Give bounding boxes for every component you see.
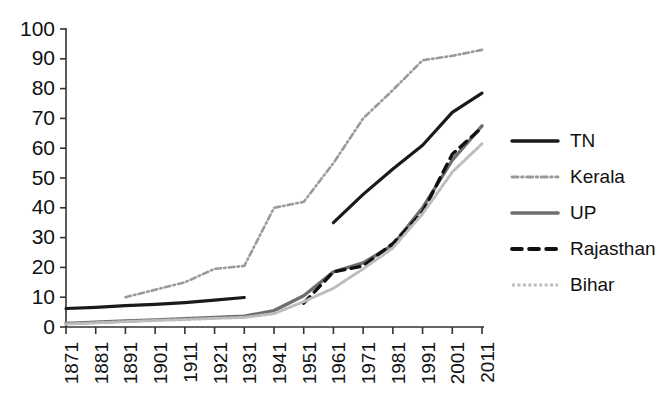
legend-label-bihar: Bihar bbox=[570, 274, 615, 295]
y-tick-label: 60 bbox=[32, 136, 55, 159]
x-tick-label: 1921 bbox=[210, 342, 231, 384]
x-tick-label: 1941 bbox=[269, 342, 290, 384]
y-tick-label: 70 bbox=[32, 106, 55, 129]
x-tick-label: 1911 bbox=[180, 342, 201, 383]
legend-label-up: UP bbox=[570, 202, 596, 223]
x-tick-label: 1951 bbox=[299, 342, 320, 384]
legend-label-kerala: Kerala bbox=[570, 166, 625, 187]
x-tick-label: 1961 bbox=[328, 342, 349, 384]
y-tick-label: 90 bbox=[32, 46, 55, 69]
legend-label-rajasthan: Rajasthan bbox=[570, 238, 656, 259]
y-tick-label: 10 bbox=[32, 285, 55, 308]
x-tick-label: 2011 bbox=[477, 342, 498, 383]
x-tick-label: 1871 bbox=[61, 342, 82, 384]
x-tick-label: 1931 bbox=[239, 342, 260, 384]
y-tick-label: 40 bbox=[32, 195, 55, 218]
y-tick-label: 100 bbox=[20, 17, 55, 40]
y-tick-label: 80 bbox=[32, 76, 55, 99]
x-tick-label: 1901 bbox=[150, 342, 171, 384]
x-tick-label: 1981 bbox=[388, 342, 409, 384]
y-tick-label: 30 bbox=[32, 225, 55, 248]
x-tick-label: 2001 bbox=[447, 342, 468, 384]
x-tick-label: 1891 bbox=[120, 342, 141, 384]
x-tick-label: 1971 bbox=[358, 342, 379, 384]
x-tick-label: 1881 bbox=[91, 342, 112, 384]
legend-label-tn: TN bbox=[570, 130, 595, 151]
y-tick-label: 0 bbox=[43, 315, 55, 338]
line-chart-figure: 0102030405060708090100 18711881189119011… bbox=[0, 0, 667, 405]
y-tick-label: 50 bbox=[32, 166, 55, 189]
x-tick-label: 1991 bbox=[418, 342, 439, 384]
y-tick-label: 20 bbox=[32, 255, 55, 278]
chart-canvas: 0102030405060708090100 18711881189119011… bbox=[0, 0, 667, 405]
